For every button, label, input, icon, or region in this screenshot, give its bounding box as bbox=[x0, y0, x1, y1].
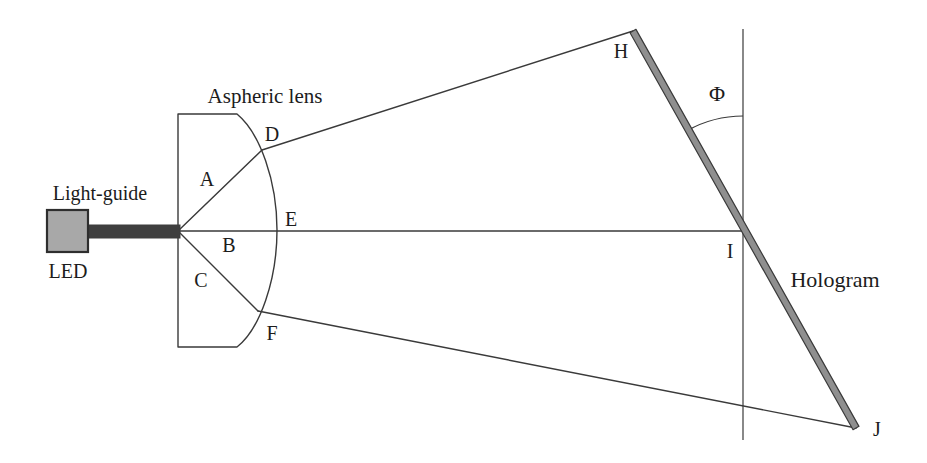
point-label-H: H bbox=[614, 40, 628, 62]
angle-arc bbox=[688, 116, 743, 130]
led-box bbox=[47, 210, 88, 252]
point-label-I: I bbox=[727, 240, 734, 262]
external-ray-F-to-J bbox=[258, 311, 856, 428]
point-label-A: A bbox=[200, 168, 215, 190]
optical-diagram: Aspheric lens Light-guide LED Hologram Φ… bbox=[0, 0, 927, 463]
point-label-F: F bbox=[266, 322, 277, 344]
point-label-D: D bbox=[265, 123, 279, 145]
point-label-B: B bbox=[222, 234, 235, 256]
hologram-label: Hologram bbox=[790, 267, 879, 292]
aspheric-lens-label: Aspheric lens bbox=[208, 84, 323, 108]
light-guide-bar bbox=[86, 225, 180, 238]
hologram-bar bbox=[630, 29, 859, 429]
diagram-canvas: Aspheric lens Light-guide LED Hologram Φ… bbox=[0, 0, 927, 463]
angle-phi-label: Φ bbox=[709, 81, 725, 106]
point-label-E: E bbox=[285, 208, 297, 230]
light-guide-label: Light-guide bbox=[53, 182, 148, 205]
point-label-C: C bbox=[194, 269, 207, 291]
point-label-J: J bbox=[873, 418, 881, 440]
led-label: LED bbox=[49, 260, 88, 282]
